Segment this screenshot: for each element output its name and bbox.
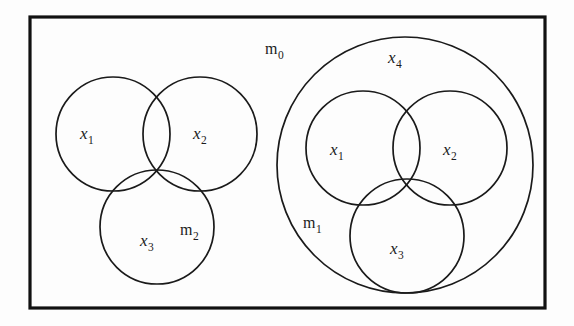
universe-frame xyxy=(30,17,545,308)
right-label-m1-base: m xyxy=(303,214,316,231)
right-label-x2-subscript: 2 xyxy=(451,150,457,162)
left-label-x3: x3 xyxy=(139,231,154,253)
venn-diagram-svg: x1x2x3m2x4x1x2x3m1m0 xyxy=(0,0,574,326)
right-label-x4-base: x xyxy=(387,48,396,67)
universe-label-m0: m0 xyxy=(265,40,284,61)
universe-label-m0-subscript: 0 xyxy=(278,49,284,61)
right-label-x3-subscript: 3 xyxy=(398,249,404,261)
right-label-x3: x3 xyxy=(389,239,404,261)
right-circle-x1 xyxy=(306,91,420,205)
left-label-x1-subscript: 1 xyxy=(88,134,94,146)
left-label-m2: m2 xyxy=(180,221,199,242)
right-label-x2-base: x xyxy=(442,140,451,159)
left-label-x3-base: x xyxy=(139,231,148,250)
left-label-x2: x2 xyxy=(192,124,207,146)
venn-figure-container: x1x2x3m2x4x1x2x3m1m0 xyxy=(0,0,574,326)
right-label-x1-base: x xyxy=(329,140,338,159)
left-label-x2-subscript: 2 xyxy=(201,134,207,146)
right-label-x3-base: x xyxy=(389,239,398,258)
right-label-x1-subscript: 1 xyxy=(338,150,344,162)
left-label-m2-subscript: 2 xyxy=(193,230,199,242)
right-label-m1-subscript: 1 xyxy=(316,223,322,235)
left-circle-x3 xyxy=(100,170,214,284)
right-label-m1: m1 xyxy=(303,214,322,235)
right-circle-x4 xyxy=(277,37,533,293)
left-label-x3-subscript: 3 xyxy=(148,241,154,253)
left-label-x1-base: x xyxy=(79,124,88,143)
right-circle-x3 xyxy=(350,179,464,293)
left-label-x2-base: x xyxy=(192,124,201,143)
right-label-x1: x1 xyxy=(329,140,344,162)
left-label-m2-base: m xyxy=(180,221,193,238)
universe-label-m0-base: m xyxy=(265,40,278,57)
right-label-x4: x4 xyxy=(387,48,402,70)
right-label-x4-subscript: 4 xyxy=(396,58,402,70)
left-label-x1: x1 xyxy=(79,124,94,146)
left-circle-x1 xyxy=(56,77,170,191)
right-label-x2: x2 xyxy=(442,140,457,162)
